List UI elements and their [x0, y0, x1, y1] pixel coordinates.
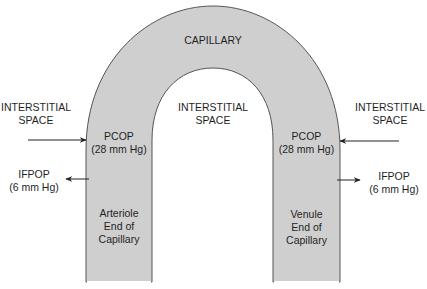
- arteriole-end-line1: Arteriole: [86, 207, 152, 220]
- ifpop-right-line1: IFPOP: [362, 170, 426, 183]
- venule-end-line3: Capillary: [273, 234, 340, 247]
- ifpop-left-line2: (6 mm Hg): [4, 181, 64, 194]
- interstitial-left-line2: SPACE: [0, 114, 74, 127]
- ifpop-right-label: IFPOP (6 mm Hg): [362, 170, 426, 196]
- pcop-left-line1: PCOP: [86, 130, 152, 143]
- arteriole-end-label: Arteriole End of Capillary: [86, 207, 152, 246]
- ifpop-left-label: IFPOP (6 mm Hg): [4, 168, 64, 194]
- pcop-left-line2: (28 mm Hg): [86, 143, 152, 156]
- interstitial-left-line1: INTERSTITIAL: [0, 101, 74, 114]
- capillary-title-text: CAPILLARY: [168, 34, 258, 47]
- venule-end-line1: Venule: [273, 208, 340, 221]
- venule-end-line2: End of: [273, 221, 340, 234]
- pcop-right-line2: (28 mm Hg): [273, 143, 340, 156]
- interstitial-left-label: INTERSTITIAL SPACE: [0, 101, 74, 127]
- interstitial-right-line2: SPACE: [352, 114, 427, 127]
- interstitial-center-label: INTERSTITIAL SPACE: [175, 101, 251, 127]
- capillary-title: CAPILLARY: [168, 34, 258, 47]
- ifpop-left-line1: IFPOP: [4, 168, 64, 181]
- interstitial-right-label: INTERSTITIAL SPACE: [352, 101, 427, 127]
- pcop-right-line1: PCOP: [273, 130, 340, 143]
- interstitial-center-line1: INTERSTITIAL: [175, 101, 251, 114]
- ifpop-right-line2: (6 mm Hg): [362, 183, 426, 196]
- interstitial-center-line2: SPACE: [175, 114, 251, 127]
- arteriole-end-line3: Capillary: [86, 233, 152, 246]
- interstitial-right-line1: INTERSTITIAL: [352, 101, 427, 114]
- arteriole-end-line2: End of: [86, 220, 152, 233]
- pcop-right-label: PCOP (28 mm Hg): [273, 130, 340, 156]
- venule-end-label: Venule End of Capillary: [273, 208, 340, 247]
- pcop-left-label: PCOP (28 mm Hg): [86, 130, 152, 156]
